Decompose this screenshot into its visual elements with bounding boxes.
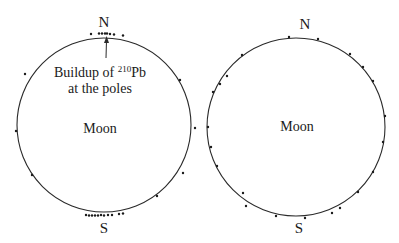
lead-deposit-dot	[372, 80, 374, 82]
lead-deposit-dot	[156, 195, 158, 197]
lead-deposit-dot	[210, 146, 212, 148]
right-south-label: S	[295, 220, 303, 236]
lead-deposit-dot	[122, 34, 124, 36]
lead-deposit-dot	[384, 115, 386, 117]
lead-deposit-dot	[111, 214, 113, 216]
lead-deposit-dot	[331, 212, 333, 214]
lead-deposit-dot	[317, 38, 319, 40]
lead-deposit-dot	[226, 75, 228, 77]
lead-deposit-dot	[212, 91, 214, 93]
lead-deposit-dot	[194, 127, 196, 129]
left-moon-label: Moon	[83, 121, 116, 136]
lead-deposit-dot	[15, 130, 17, 132]
lead-deposit-dot	[242, 192, 244, 194]
lead-deposit-dot	[304, 217, 306, 219]
lead-deposit-dot	[109, 33, 111, 35]
lead-deposit-dot	[275, 215, 277, 217]
lead-deposit-dot	[241, 54, 243, 56]
lead-deposit-dot	[100, 214, 102, 216]
lead-deposit-dot	[219, 83, 221, 85]
lead-deposit-dot	[357, 191, 359, 193]
lead-deposit-dot	[245, 205, 247, 207]
lead-deposit-dot	[339, 207, 341, 209]
lead-deposit-dot	[98, 32, 100, 34]
lead-deposit-dot	[90, 33, 92, 35]
annotation-arrow-icon	[104, 36, 109, 58]
lead-deposit-dot	[122, 212, 124, 214]
lead-deposit-dot	[31, 174, 33, 176]
lead-deposit-dot	[94, 214, 96, 216]
lead-deposit-dot	[88, 214, 90, 216]
lead-deposit-dot	[24, 73, 26, 75]
lead-deposit-dot	[97, 214, 99, 216]
lead-deposit-dot	[372, 171, 374, 173]
left-north-label: N	[99, 14, 110, 30]
lead-deposit-dot	[101, 32, 103, 34]
annotation-line-2: at the poles	[68, 81, 132, 96]
left-moon-panel: N S Buildup of 210Pb at the poles Moon	[15, 14, 196, 236]
lead-deposit-dot	[182, 172, 184, 174]
lead-deposit-dot	[179, 79, 181, 81]
lead-deposit-dot	[103, 214, 105, 216]
lead-deposit-dot	[91, 214, 93, 216]
lead-deposit-dot	[382, 141, 384, 143]
isotope-superscript: 210	[118, 64, 132, 74]
lead-deposit-dot	[288, 36, 290, 38]
right-north-label: N	[300, 16, 311, 32]
lead-deposit-dot	[113, 33, 115, 35]
right-moon-panel: N S Moon	[207, 16, 386, 236]
lead-deposit-dot	[349, 53, 351, 55]
lead-deposit-dot	[106, 32, 108, 34]
left-south-label: S	[100, 220, 108, 236]
lead-deposit-dot	[207, 126, 209, 128]
lead-deposit-dot	[107, 214, 109, 216]
annotation-line-1: Buildup of 210Pb	[54, 64, 146, 80]
moon-polar-lead-diagram: N S Buildup of 210Pb at the poles Moon N…	[0, 0, 399, 243]
lead-deposit-dot	[216, 165, 218, 167]
right-moon-label: Moon	[280, 119, 313, 134]
lead-deposit-dot	[85, 214, 87, 216]
lead-deposit-dot	[362, 66, 364, 68]
lead-deposit-dot	[118, 213, 120, 215]
